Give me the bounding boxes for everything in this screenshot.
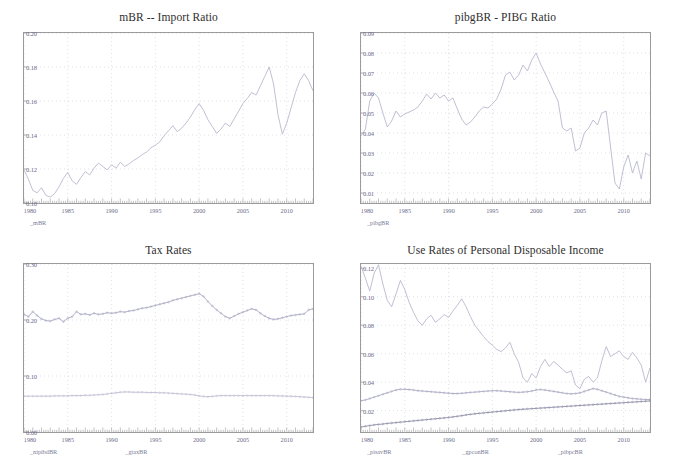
series-name-label: _gpconBR <box>462 448 488 455</box>
series-line <box>24 67 313 197</box>
series-name-label: _gtaxBR <box>125 448 147 455</box>
plot-box: 0.090.080.070.060.050.040.030.020.01 198… <box>360 32 651 204</box>
series-name-label: _mBR <box>30 219 46 226</box>
plot-box: 0.200.180.160.140.120.10 198019851990199… <box>23 32 314 204</box>
plot-box: 0.300.200.100.00 19801985199019952000200… <box>23 263 314 433</box>
series-line <box>361 265 650 389</box>
panel-title: Use Rates of Personal Disposable Income <box>337 235 674 256</box>
y-tick-label: 0.20 <box>26 317 37 324</box>
plot-area-wrapper: 0.120.100.080.060.040.02 198019851990199… <box>337 263 674 433</box>
chart-canvas <box>24 264 313 432</box>
y-tick-label: 0.18 <box>26 64 37 71</box>
series-labels: _pibgBR <box>361 203 650 219</box>
series-name-label: _pisavBR <box>367 448 391 455</box>
series-name-label: _pibgBR <box>367 219 389 226</box>
y-tick-label: 0.10 <box>26 373 37 380</box>
series-labels: _nipibdBR_gtaxBR <box>24 432 313 448</box>
series-labels: _mBR <box>24 203 313 219</box>
chart-canvas <box>361 33 650 203</box>
series-name-label: _pibpcBR <box>558 448 583 455</box>
y-tick-label: 0.09 <box>363 30 374 37</box>
y-tick-label: 0.02 <box>363 407 374 414</box>
plot-area-wrapper: 0.300.200.100.00 19801985199019952000200… <box>0 263 337 433</box>
y-tick-label: 0.16 <box>26 98 37 105</box>
y-tick-label: 0.30 <box>26 261 37 268</box>
y-tick-label: 0.12 <box>363 265 374 272</box>
series-line <box>361 401 650 427</box>
series-labels: _pisavBR_gpconBR_pibpcBR <box>361 432 650 448</box>
y-tick-label: 0.06 <box>363 90 374 97</box>
panel-title: mBR -- Import Ratio <box>0 0 337 23</box>
y-tick-label: 0.12 <box>26 166 37 173</box>
panel-pibgbr-pibg-ratio: pibgBR - PIBG Ratio 0.090.080.070.060.05… <box>337 0 674 235</box>
series-name-label: _nipibdBR <box>30 448 57 455</box>
y-tick-label: 0.02 <box>363 170 374 177</box>
panel-tax-rates: Tax Rates 0.300.200.100.00 1980198519901… <box>0 235 337 467</box>
plot-area-wrapper: 0.200.180.160.140.120.10 198019851990199… <box>0 32 337 204</box>
y-tick-label: 0.08 <box>363 50 374 57</box>
panel-mbr-import-ratio: mBR -- Import Ratio 0.200.180.160.140.12… <box>0 0 337 235</box>
panel-title: Tax Rates <box>0 235 337 256</box>
panel-use-rates-personal-disposable-income: Use Rates of Personal Disposable Income … <box>337 235 674 467</box>
y-tick-label: 0.14 <box>26 132 37 139</box>
y-tick-label: 0.10 <box>363 293 374 300</box>
y-tick-label: 0.06 <box>363 350 374 357</box>
chart-canvas <box>24 33 313 203</box>
figure-grid: mBR -- Import Ratio 0.200.180.160.140.12… <box>0 0 674 467</box>
y-tick-label: 0.01 <box>363 190 374 197</box>
plot-area-wrapper: 0.090.080.070.060.050.040.030.020.01 198… <box>337 32 674 204</box>
y-tick-label: 0.08 <box>363 322 374 329</box>
panel-title: pibgBR - PIBG Ratio <box>337 0 674 23</box>
plot-box: 0.120.100.080.060.040.02 198019851990199… <box>360 263 651 433</box>
chart-canvas <box>361 264 650 432</box>
y-tick-label: 0.03 <box>363 150 374 157</box>
y-tick-label: 0.04 <box>363 379 374 386</box>
y-tick-label: 0.20 <box>26 30 37 37</box>
y-tick-label: 0.04 <box>363 130 374 137</box>
y-tick-label: 0.05 <box>363 110 374 117</box>
y-tick-label: 0.07 <box>363 70 374 77</box>
series-line <box>361 53 650 189</box>
